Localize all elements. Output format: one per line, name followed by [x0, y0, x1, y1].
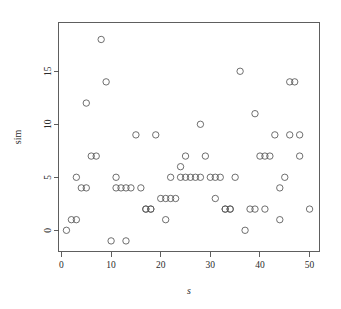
x-tick-label: 0 — [59, 260, 64, 270]
y-tick-label: 10 — [44, 119, 54, 129]
y-tick-label: 0 — [44, 228, 54, 233]
y-tick-label: 5 — [44, 175, 54, 180]
y-tick-label: 15 — [44, 66, 54, 76]
scatter-plot-figure: 01020304050 051015 s sim — [0, 0, 341, 309]
figure-background — [0, 0, 341, 309]
x-tick-label: 20 — [156, 260, 166, 270]
x-tick-label: 10 — [106, 260, 116, 270]
x-tick-label: 50 — [305, 260, 315, 270]
x-tick-label: 40 — [255, 260, 265, 270]
x-tick-label: 30 — [206, 260, 216, 270]
x-axis-title: s — [187, 285, 191, 296]
y-axis-title: sim — [12, 130, 23, 145]
plot-canvas: 01020304050 051015 s sim — [0, 0, 341, 309]
